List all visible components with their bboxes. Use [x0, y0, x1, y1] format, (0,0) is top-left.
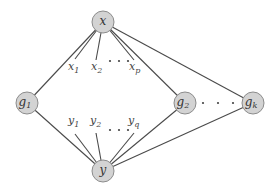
ellipsis-dot-x2-xp [109, 60, 111, 62]
ellipsis-dot-y2-yq [109, 129, 111, 131]
node-g2: g2 [174, 92, 196, 114]
leaf-label-xp: xp [129, 60, 140, 75]
ellipsis-dot-g2-gk [202, 102, 204, 104]
leaf-label-y1: y1 [67, 114, 79, 129]
nodes: xg1g2gky [16, 11, 264, 182]
node-g1: g1 [16, 92, 38, 114]
ellipsis-dot-x2-xp [118, 60, 120, 62]
edge-y-gk [103, 103, 253, 171]
edge-y-g2 [103, 103, 185, 171]
leaf-labels: x1x2xpy1y2yq [67, 60, 140, 129]
node-label-y: y [99, 163, 107, 177]
node-x: x [92, 11, 114, 33]
edge-x-g2 [103, 22, 185, 103]
edge-x-gk [103, 22, 253, 103]
node-y: y [92, 160, 114, 182]
node-gk: gk [242, 92, 264, 114]
leaf-label-y2: y2 [89, 114, 101, 129]
ellipsis-dot-g2-gk [232, 102, 234, 104]
leaf-label-x1: x1 [68, 60, 79, 75]
ellipsis-dot-y2-yq [127, 129, 129, 131]
ellipsis-dot-y2-yq [118, 129, 120, 131]
node-label-x: x [100, 14, 107, 28]
ellipsis-dot-g2-gk [217, 102, 219, 104]
leaf-label-x2: x2 [91, 60, 102, 75]
edges [27, 22, 253, 171]
leaf-label-yq: yq [127, 114, 139, 129]
graph-diagram: x1x2xpy1y2yq xg1g2gky [0, 0, 277, 194]
